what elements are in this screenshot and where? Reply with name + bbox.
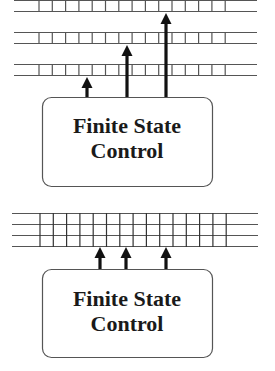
tape-1-cells bbox=[39, 0, 225, 12]
track-head-arrow-2-icon bbox=[121, 247, 132, 269]
control-label-1-line2: Control bbox=[42, 138, 212, 163]
multi-track-diagram bbox=[12, 213, 258, 247]
track-head-arrow-1-icon bbox=[95, 247, 106, 269]
tape-2 bbox=[14, 32, 257, 44]
tape-1 bbox=[14, 0, 257, 12]
control-label-1: Finite State Control bbox=[42, 113, 212, 163]
control-label-2: Finite State Control bbox=[42, 286, 212, 336]
control-label-1-line1: Finite State bbox=[42, 113, 212, 138]
head-arrow-2-icon bbox=[122, 45, 133, 97]
track-cells bbox=[40, 213, 226, 247]
tape-2-cells bbox=[39, 32, 225, 44]
tape-3 bbox=[14, 64, 257, 76]
control-label-2-line2: Control bbox=[42, 311, 212, 336]
head-arrow-1-icon bbox=[82, 77, 93, 97]
track-head-arrow-3-icon bbox=[161, 247, 172, 269]
head-arrow-3-icon bbox=[161, 13, 172, 97]
tape-3-cells bbox=[39, 64, 225, 76]
control-label-2-line1: Finite State bbox=[42, 286, 212, 311]
